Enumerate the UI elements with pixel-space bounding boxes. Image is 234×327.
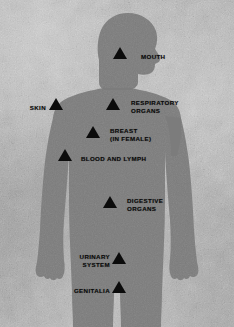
- label-urinary-system: URINARY SYSTEM: [80, 253, 110, 268]
- label-blood-and-lymph: BLOOD AND LYMPH: [81, 155, 146, 163]
- triangle-up-icon-genitalia: [112, 281, 126, 293]
- label-breast-in-female: BREAST (IN FEMALE): [110, 127, 151, 142]
- label-digestive-organs: DIGESTIVE ORGANS: [127, 197, 163, 212]
- triangle-up-icon-skin: [49, 98, 63, 110]
- triangle-up-icon-urinary-system: [112, 252, 126, 264]
- triangle-up-icon-digestive-organs: [103, 196, 117, 208]
- label-skin: SKIN: [30, 104, 46, 112]
- triangle-up-icon-mouth: [113, 47, 127, 59]
- label-respiratory-organs: RESPIRATORY ORGANS: [131, 99, 179, 114]
- label-genitalia: GENITALIA: [74, 287, 110, 295]
- triangle-up-icon-blood-and-lymph: [58, 149, 72, 161]
- body-systems-diagram: MOUTH SKIN RESPIRATORY ORGANS BREAST (IN…: [0, 0, 234, 327]
- triangle-up-icon-breast: [86, 126, 100, 138]
- label-mouth: MOUTH: [141, 53, 165, 61]
- triangle-up-icon-respiratory-organs: [106, 98, 120, 110]
